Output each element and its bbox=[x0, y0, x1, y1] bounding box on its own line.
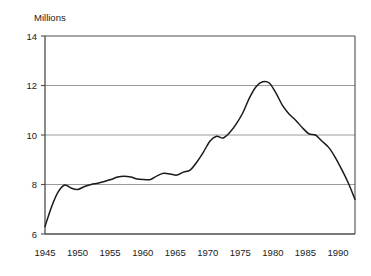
xtick-label-1980: 1980 bbox=[262, 247, 283, 258]
xtick-label-1955: 1955 bbox=[100, 247, 121, 258]
ytick-label-6: 6 bbox=[32, 229, 37, 240]
xtick-label-1950: 1950 bbox=[67, 247, 88, 258]
xtick-label-1970: 1970 bbox=[197, 247, 218, 258]
xtick-label-1960: 1960 bbox=[132, 247, 153, 258]
ytick-label-12: 12 bbox=[26, 80, 37, 91]
line-chart: 14 12 10 8 6 1945 1950 1955 1960 1965 19… bbox=[0, 0, 371, 276]
chart-screenshot: 14 12 10 8 6 1945 1950 1955 1960 1965 19… bbox=[0, 0, 371, 276]
ytick-label-14: 14 bbox=[26, 31, 37, 42]
xtick-label-1975: 1975 bbox=[230, 247, 251, 258]
xtick-label-1985: 1985 bbox=[295, 247, 316, 258]
xtick-label-1945: 1945 bbox=[34, 247, 55, 258]
ytick-label-10: 10 bbox=[26, 130, 37, 141]
ytick-label-8: 8 bbox=[32, 179, 37, 190]
xtick-label-1965: 1965 bbox=[165, 247, 186, 258]
y-axis-title: Millions bbox=[34, 12, 66, 23]
xtick-label-1990: 1990 bbox=[327, 247, 348, 258]
